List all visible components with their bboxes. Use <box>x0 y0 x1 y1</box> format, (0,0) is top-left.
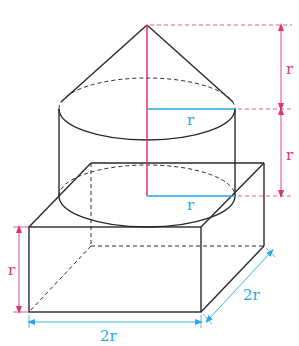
cylinder-height-label: r <box>286 146 294 164</box>
cone-radius-label: r <box>187 111 195 129</box>
cylinder-bottom-arc <box>59 196 235 227</box>
cylinder-radius-label: r <box>187 196 195 214</box>
extension-lines <box>150 25 292 196</box>
box-depth-dimension <box>208 252 271 320</box>
box-height-label: r <box>8 261 16 279</box>
cone-height-label: r <box>286 60 294 78</box>
box-depth-label: 2r <box>243 286 261 304</box>
composite-solid-diagram: r r r r r 2r 2r <box>0 0 299 346</box>
box-width-label: 2r <box>100 327 118 345</box>
